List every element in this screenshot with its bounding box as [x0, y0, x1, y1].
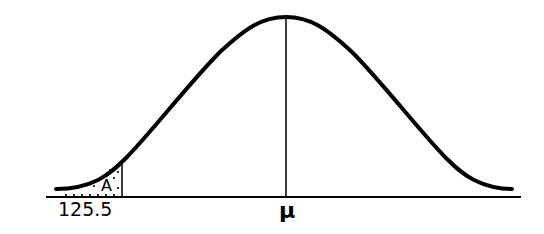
area-label: A [101, 176, 112, 195]
bell-curve [56, 17, 512, 189]
cutoff-value-label: 125.5 [58, 198, 112, 220]
mean-label: μ [279, 198, 295, 223]
